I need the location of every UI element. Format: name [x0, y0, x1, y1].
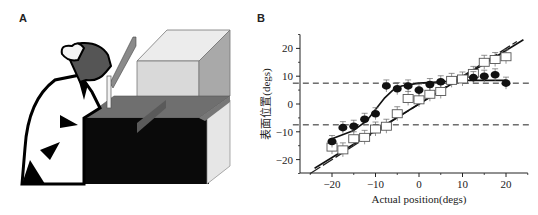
square-marker: [479, 58, 489, 66]
y-tick-label: 0: [288, 98, 294, 110]
apparatus-illustration: [0, 0, 240, 215]
circle-marker: [328, 138, 337, 146]
square-marker: [403, 94, 413, 102]
x-tick-label: 20: [501, 178, 513, 190]
circle-marker: [480, 72, 489, 80]
square-marker: [458, 75, 468, 83]
linear-fit-line: [315, 40, 524, 168]
circle-marker: [502, 79, 511, 87]
x-tick-label: 10: [457, 178, 469, 190]
x-tick-label: 0: [416, 178, 422, 190]
circle-marker: [393, 85, 402, 93]
square-marker: [447, 76, 457, 84]
circle-marker: [415, 86, 424, 94]
circle-marker: [469, 74, 478, 82]
x-tick-label: −10: [367, 178, 385, 190]
square-marker: [338, 146, 348, 154]
square-marker: [360, 133, 370, 141]
square-marker: [468, 69, 478, 77]
circle-marker: [425, 81, 434, 89]
y-tick-label: 20: [282, 42, 294, 54]
identity-line: [310, 41, 517, 173]
head-bar: [110, 37, 136, 88]
square-marker: [327, 143, 337, 151]
square-marker: [414, 96, 424, 104]
square-marker: [381, 122, 391, 130]
square-marker: [371, 125, 381, 133]
sigmoid-fit-line: [332, 80, 506, 138]
y-axis-title: 表面位置(degs): [259, 68, 273, 140]
circle-marker: [371, 110, 380, 118]
square-marker: [490, 56, 500, 64]
y-tick-label: 10: [282, 70, 294, 82]
circle-marker: [491, 71, 500, 79]
circle-marker: [338, 124, 347, 132]
x-axis-title: Actual position(degs): [371, 193, 466, 206]
square-marker: [425, 90, 435, 98]
y-tick-label: −20: [276, 154, 294, 166]
y-tick-label: −10: [276, 126, 294, 138]
square-marker: [501, 53, 511, 61]
panel-b-label: B: [257, 12, 265, 24]
table-front: [84, 118, 209, 184]
circle-marker: [349, 122, 358, 130]
circle-marker: [436, 78, 445, 86]
square-marker: [392, 110, 402, 118]
square-marker: [436, 87, 446, 95]
square-marker: [349, 135, 359, 143]
circle-marker: [404, 82, 413, 90]
circle-marker: [360, 115, 369, 123]
chin-post: [107, 76, 111, 108]
x-tick-label: −20: [323, 178, 341, 190]
circle-marker: [382, 82, 391, 90]
